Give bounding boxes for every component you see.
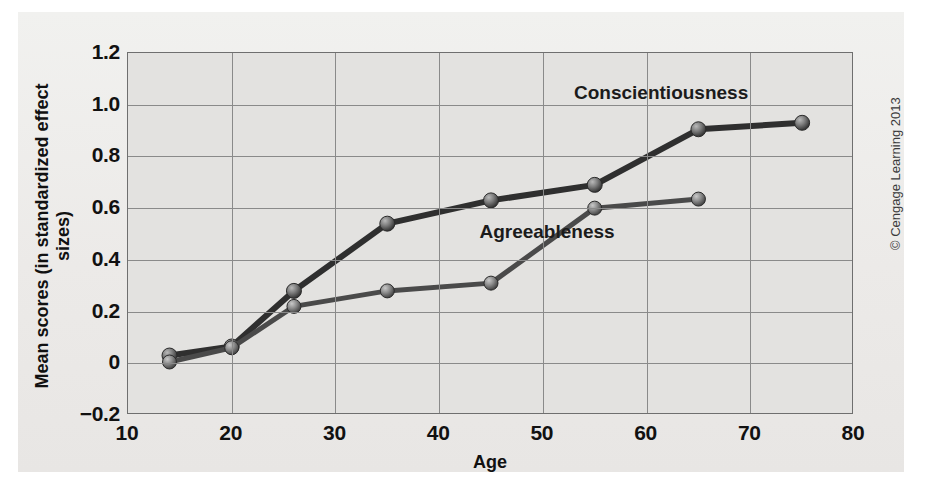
x-tick-label: 50 — [530, 421, 553, 445]
x-tick-label: 10 — [116, 421, 139, 445]
series-agreeableness — [162, 192, 705, 369]
gridline-vertical — [335, 53, 336, 413]
y-tick-label: 0.8 — [92, 143, 120, 167]
series-label-conscientiousness: Conscientiousness — [574, 82, 748, 104]
y-tick-label: 0.4 — [92, 247, 120, 271]
figure-container: Mean scores (in standardized effect size… — [0, 0, 940, 490]
gridline-horizontal — [128, 105, 852, 106]
gridline-vertical — [750, 53, 751, 413]
y-tick-label: 0 — [109, 350, 120, 374]
y-tick-label: −0.2 — [80, 402, 120, 426]
data-point-marker — [691, 122, 706, 137]
gridline-horizontal — [128, 208, 852, 209]
data-point-marker — [484, 193, 499, 208]
gridline-horizontal — [128, 260, 852, 261]
data-point-marker — [484, 276, 498, 290]
gridline-horizontal — [128, 156, 852, 157]
x-tick-label: 30 — [323, 421, 346, 445]
gridline-vertical — [232, 53, 233, 413]
copyright-credit: © Cengage Learning 2013 — [888, 97, 903, 250]
gridline-horizontal — [128, 312, 852, 313]
gridline-vertical — [439, 53, 440, 413]
data-point-marker — [691, 192, 705, 206]
y-axis-tick-labels: −0.200.20.40.60.81.01.2 — [64, 52, 120, 414]
data-point-marker — [162, 355, 176, 369]
gridline-vertical — [647, 53, 648, 413]
data-point-marker — [380, 284, 394, 298]
y-tick-label: 1.0 — [92, 92, 120, 116]
y-tick-label: 1.2 — [92, 40, 120, 64]
data-point-marker — [587, 177, 602, 192]
y-tick-label: 0.6 — [92, 195, 120, 219]
x-axis-tick-labels: 1020304050607080 — [127, 421, 853, 449]
x-tick-label: 60 — [634, 421, 657, 445]
data-point-marker — [795, 115, 810, 130]
x-tick-label: 40 — [427, 421, 450, 445]
x-tick-label: 70 — [738, 421, 761, 445]
series-line — [169, 199, 698, 362]
x-axis-title: Age — [127, 452, 853, 473]
y-tick-label: 0.2 — [92, 299, 120, 323]
gridline-horizontal — [128, 363, 852, 364]
x-tick-label: 80 — [842, 421, 865, 445]
data-point-marker — [380, 216, 395, 231]
series-label-agreeableness: Agreeableness — [479, 221, 614, 243]
data-point-marker — [286, 283, 301, 298]
x-tick-label: 20 — [219, 421, 242, 445]
